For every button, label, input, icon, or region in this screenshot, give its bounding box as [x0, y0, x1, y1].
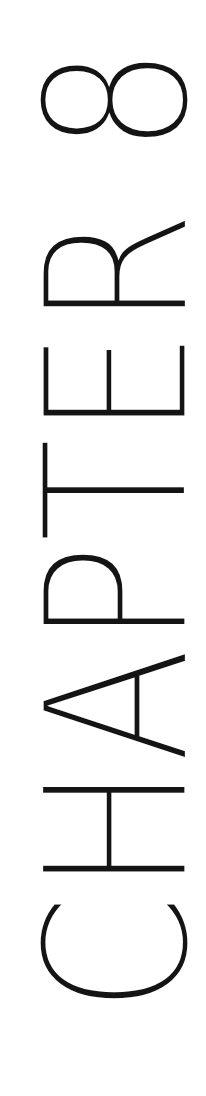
chapter-heading: CHAPTER 8: [0, 0, 206, 1096]
chapter-heading-text: CHAPTER 8: [2, 45, 206, 1014]
page: CHAPTER 8: [0, 0, 206, 1096]
